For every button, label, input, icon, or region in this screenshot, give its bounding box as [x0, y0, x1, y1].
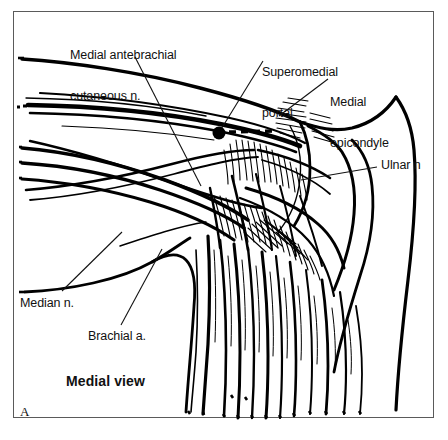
label-line-2: epicondyle	[330, 137, 389, 151]
label-medial-antebrachial-cutaneous-nerve: Medial antebrachial cutaneous n.	[70, 22, 177, 130]
label-line-2: cutaneous n.	[70, 90, 177, 104]
figure-page: Medial antebrachial cutaneous n. Superom…	[0, 0, 448, 440]
label-line-1: Medial	[330, 96, 389, 110]
label-brachial-artery: Brachial a.	[88, 330, 146, 344]
label-median-nerve: Median n.	[20, 297, 74, 311]
label-line-1: Medial antebrachial	[70, 49, 177, 63]
panel-letter: A	[20, 404, 29, 420]
label-line-1: Superomedial	[262, 66, 338, 80]
label-line-2: portal	[262, 107, 338, 121]
label-superomedial-portal: Superomedial portal	[262, 39, 338, 147]
label-medial-epicondyle: Medial epicondyle	[330, 69, 389, 177]
view-caption: Medial view	[66, 375, 145, 389]
label-ulnar-nerve: Ulnar n	[381, 159, 421, 173]
